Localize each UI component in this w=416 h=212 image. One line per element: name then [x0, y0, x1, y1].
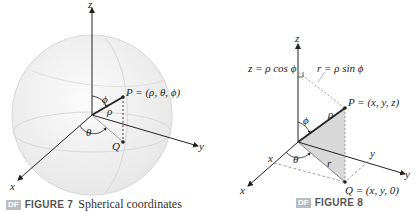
- phi-label: ϕ: [102, 93, 108, 105]
- rho-label: ρ: [106, 105, 112, 117]
- point-q-label: Q = (x, y, 0): [345, 184, 399, 197]
- point-q: [121, 140, 125, 144]
- x-axis-label: x: [9, 180, 15, 192]
- theta-label: θ: [293, 153, 299, 165]
- z-axis-label: z: [87, 0, 93, 10]
- x-axis-label: x: [239, 184, 245, 196]
- df-badge: DF: [6, 200, 21, 210]
- y-axis-label: y: [404, 168, 410, 180]
- figure-7-number: FIGURE 7: [25, 199, 74, 210]
- z-axis-label: z: [294, 32, 300, 44]
- x-axis: [248, 142, 298, 186]
- y-axis-label: y: [198, 140, 204, 152]
- r-formula-label: r = ρ sin ϕ: [317, 62, 364, 74]
- rho-label: ρ: [327, 108, 333, 120]
- figure-8-caption: DF FIGURE 8: [296, 197, 368, 208]
- df-badge: DF: [296, 198, 311, 208]
- r-label: r: [327, 157, 332, 169]
- right-angle-mark: [298, 72, 303, 77]
- figure-8-diagram: z y x z = ρ cos ϕ r = ρ sin ϕ P = (x, y,…: [239, 32, 410, 197]
- y-axis: [298, 142, 405, 174]
- figure-7-caption: DF FIGURE 7 Spherical coordinates: [6, 197, 182, 212]
- y-to-q-dashed: [345, 158, 372, 182]
- figure-8-number: FIGURE 8: [315, 197, 364, 208]
- figures-canvas: z y x ϕ ρ θ P = (ρ, θ, ϕ) Q z y x z = ρ …: [0, 0, 416, 212]
- figure-7-caption-text: Spherical coordinates: [78, 197, 182, 212]
- y-tick-label: y: [369, 147, 375, 159]
- point-p: [343, 106, 347, 110]
- point-p-label: P = (ρ, θ, ϕ): [125, 86, 180, 99]
- point-p-label: P = (x, y, z): [347, 96, 400, 109]
- point-q-label: Q: [112, 140, 120, 152]
- figure-7-diagram: z y x ϕ ρ θ P = (ρ, θ, ϕ) Q: [9, 0, 204, 195]
- point-p: [121, 95, 125, 99]
- phi-label: ϕ: [303, 114, 309, 126]
- theta-label: θ: [86, 126, 92, 138]
- x-tick-label: x: [267, 152, 273, 164]
- z-formula-label: z = ρ cos ϕ: [247, 62, 297, 74]
